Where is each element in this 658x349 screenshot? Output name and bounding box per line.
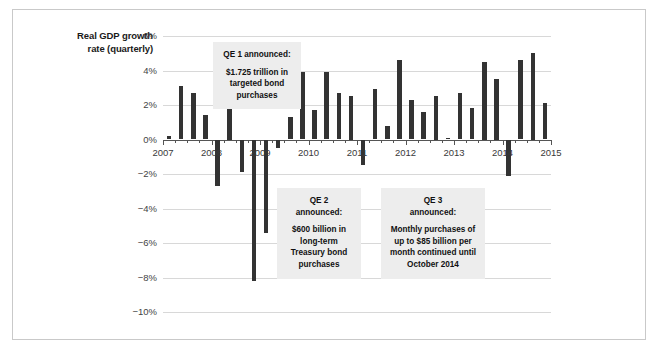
bar: [458, 93, 462, 140]
x-axis-tick: [430, 140, 431, 144]
x-axis-tick: [369, 140, 370, 144]
bar: [349, 96, 353, 139]
bar: [179, 86, 183, 139]
x-axis-tick-label: 2008: [201, 147, 222, 158]
callout-qe2-line1: $600 billion in: [282, 224, 356, 236]
x-axis-tick: [163, 140, 164, 145]
y-axis-tick-label: −2%: [111, 168, 157, 179]
x-axis-tick: [466, 140, 467, 144]
callout-qe3-line1: Monthly purchases of: [386, 224, 480, 236]
x-axis-tick-label: 2013: [443, 147, 464, 158]
bar: [446, 138, 450, 140]
callout-qe2-line4: purchases: [282, 259, 356, 271]
x-axis-tick: [199, 140, 200, 144]
bar: [312, 110, 316, 139]
x-axis-tick: [321, 140, 322, 144]
y-axis-tick-label: −6%: [111, 237, 157, 248]
x-axis-tick-label: 2010: [298, 147, 319, 158]
y-axis-tick-label: 6%: [111, 30, 157, 41]
y-axis-tick-label: −10%: [111, 306, 157, 317]
callout-qe1-line1: $1.725 trillion in: [218, 67, 296, 79]
bar: [252, 140, 256, 281]
x-axis-tick: [442, 140, 443, 144]
gridline: [163, 174, 551, 175]
callout-qe3-line2: up to $85 billion per: [386, 236, 480, 248]
bar: [531, 53, 535, 139]
callout-qe2-line3: Treasury bond: [282, 247, 356, 259]
bar: [191, 93, 195, 140]
x-axis-tick: [333, 140, 334, 144]
x-axis-tick: [345, 140, 346, 144]
bar: [518, 60, 522, 139]
callout-qe1: QE 1 announced: $1.725 trillion in targe…: [213, 42, 301, 109]
callout-qe3-header-line2: announced:: [386, 207, 480, 219]
bar: [324, 72, 328, 139]
bar: [494, 79, 498, 139]
x-axis-tick-label: 2012: [395, 147, 416, 158]
callout-qe2: QE 2 announced: $600 billion in long-ter…: [277, 188, 361, 279]
x-axis-tick: [527, 140, 528, 144]
bar: [409, 100, 413, 140]
x-axis-tick-label: 2007: [152, 147, 173, 158]
x-axis-tick-label: 2015: [540, 147, 561, 158]
callout-qe3: QE 3 announced: Monthly purchases of up …: [381, 188, 485, 279]
bar: [543, 103, 547, 139]
bar: [470, 108, 474, 139]
x-axis-tick: [187, 140, 188, 144]
callout-qe3-line4: October 2014: [386, 259, 480, 271]
bar: [203, 115, 207, 139]
x-axis-tick: [175, 140, 176, 144]
x-axis-tick: [309, 140, 310, 145]
callout-qe1-header: QE 1 announced:: [218, 49, 296, 61]
bar: [373, 89, 377, 139]
x-axis-tick: [272, 140, 273, 144]
x-axis-tick: [381, 140, 382, 144]
x-axis-tick-label: 2011: [347, 147, 367, 158]
callout-qe3-line3: month continued until: [386, 247, 480, 259]
bar: [434, 96, 438, 139]
y-axis-tick-label: −8%: [111, 272, 157, 283]
bar: [385, 126, 389, 140]
x-axis-tick: [284, 140, 285, 144]
bar: [337, 93, 341, 140]
callout-qe3-header-line1: QE 3: [386, 195, 480, 207]
x-axis-tick: [478, 140, 479, 144]
bar: [506, 140, 510, 176]
bar: [482, 62, 486, 140]
x-axis-tick: [490, 140, 491, 144]
x-axis-tick: [260, 140, 261, 145]
x-axis-tick: [357, 140, 358, 145]
bar: [227, 105, 231, 140]
y-axis-tick-label: 2%: [111, 99, 157, 110]
x-axis-tick: [454, 140, 455, 145]
x-axis-tick: [515, 140, 516, 144]
bar: [240, 140, 244, 173]
callout-qe1-line2: targeted bond: [218, 78, 296, 90]
y-axis-tick-label: 4%: [111, 65, 157, 76]
gdp-growth-figure: Real GDP growth rate (quarterly) 6%4%2%0…: [0, 0, 658, 349]
x-axis-tick-label: 2009: [249, 147, 270, 158]
bar: [288, 117, 292, 139]
callout-qe1-line3: purchases: [218, 90, 296, 102]
x-axis-tick: [503, 140, 504, 145]
gridline: [163, 312, 551, 313]
gridline: [163, 36, 551, 37]
x-axis-tick: [236, 140, 237, 144]
y-axis-tick-label: −4%: [111, 203, 157, 214]
x-axis-tick: [248, 140, 249, 144]
bar: [397, 60, 401, 139]
y-axis-title-line2: rate (quarterly): [88, 43, 153, 54]
x-axis-tick: [393, 140, 394, 144]
x-axis-tick: [296, 140, 297, 144]
callout-qe2-header-line2: announced:: [282, 207, 356, 219]
x-axis-tick: [551, 140, 552, 145]
bar: [167, 136, 171, 139]
bar: [276, 140, 280, 149]
x-axis-tick: [539, 140, 540, 144]
bar: [421, 112, 425, 140]
x-axis-tick: [406, 140, 407, 145]
callout-qe2-line2: long-term: [282, 236, 356, 248]
y-axis-tick-label: 0%: [111, 134, 157, 145]
callout-qe2-header-line1: QE 2: [282, 195, 356, 207]
x-axis-tick: [212, 140, 213, 145]
